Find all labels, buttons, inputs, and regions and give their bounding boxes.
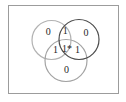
label-left-only: 0 [46, 26, 51, 37]
label-left-right-overlap: 1 [63, 25, 68, 36]
venn-diagram: 0 1 0 1 1* 1 0 [0, 0, 126, 102]
label-right-only: 0 [84, 27, 89, 38]
label-right-bottom-overlap: 1 [75, 44, 80, 55]
screenshot-canvas: 0 1 0 1 1* 1 0 [0, 0, 126, 102]
label-center-all-three: 1* [62, 43, 72, 54]
label-left-bottom-overlap: 1 [53, 44, 58, 55]
label-bottom-only: 0 [64, 64, 69, 75]
